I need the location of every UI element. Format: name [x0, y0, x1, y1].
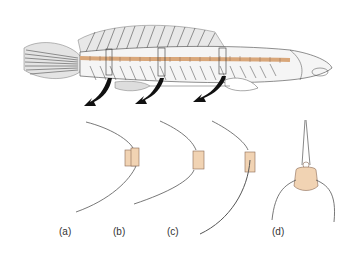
vertebra-b	[76, 122, 139, 212]
label-a: (a)	[59, 226, 71, 237]
arrow-icon	[84, 78, 112, 106]
vertebra-d	[272, 120, 335, 222]
label-c: (c)	[167, 226, 179, 237]
label-b: (b)	[113, 226, 125, 237]
fish-skeleton-diagram	[0, 0, 354, 256]
fish-illustration	[24, 25, 332, 91]
label-d: (d)	[272, 226, 284, 237]
vertebra-c	[134, 121, 204, 204]
vertebra-c2	[200, 121, 255, 234]
arrow-icon	[135, 78, 164, 104]
